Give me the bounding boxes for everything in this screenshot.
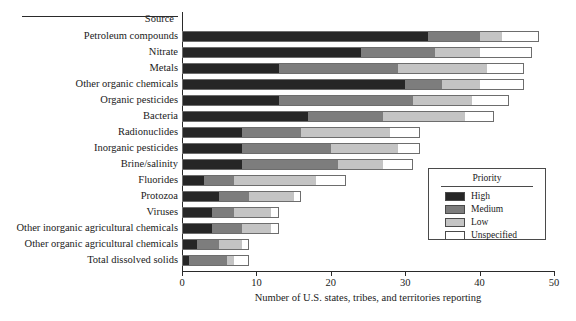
legend-item-unspecified[interactable]: Unspecified — [445, 229, 545, 241]
bar-segment-low — [442, 79, 479, 90]
bar-segment-unspec — [487, 63, 524, 74]
category-label: Other inorganic agricultural chemicals — [16, 222, 178, 233]
x-tick — [331, 271, 332, 276]
bar-segment-medium — [242, 143, 331, 154]
bar-inorganic-pesticides[interactable] — [182, 143, 420, 154]
bar-organic-pesticides[interactable] — [182, 95, 509, 106]
bar-segment-medium — [189, 255, 226, 266]
legend-swatch-unspecified — [445, 231, 465, 240]
bar-segment-medium — [204, 175, 234, 186]
category-label: Brine/salinity — [121, 158, 178, 169]
x-tick-label: 50 — [549, 277, 560, 289]
category-label: Nitrate — [149, 46, 178, 57]
bar-segment-low — [480, 31, 502, 42]
bar-segment-unspec — [271, 223, 278, 234]
bar-segment-medium — [212, 207, 234, 218]
legend-swatch-high — [445, 192, 465, 201]
legend: Priority High Medium Low Unspecified — [428, 168, 546, 240]
bar-bacteria[interactable] — [182, 111, 494, 122]
bar-segment-high — [182, 95, 279, 106]
bar-total-dissolved-solids[interactable] — [182, 255, 249, 266]
bar-segment-high — [182, 31, 428, 42]
category-label: Petroleum compounds — [84, 30, 178, 41]
bar-segment-medium — [197, 239, 219, 250]
x-tick-label: 40 — [474, 277, 485, 289]
bar-petroleum-compounds[interactable] — [182, 31, 539, 42]
legend-label-low: Low — [471, 217, 488, 228]
bar-segment-unspec — [480, 47, 532, 58]
x-tick-label: 0 — [179, 277, 184, 289]
legend-item-high[interactable]: High — [445, 190, 545, 202]
x-tick-label: 30 — [400, 277, 411, 289]
bar-segment-low — [234, 175, 316, 186]
bar-segment-low — [249, 191, 294, 202]
bar-segment-high — [182, 223, 212, 234]
bar-segment-low — [383, 111, 465, 122]
bar-radionuclides[interactable] — [182, 127, 420, 138]
bar-segment-high — [182, 175, 204, 186]
bar-segment-low — [242, 223, 272, 234]
x-tick-label: 10 — [251, 277, 262, 289]
legend-rule — [441, 186, 533, 187]
bar-segment-low — [234, 207, 271, 218]
bar-segment-low — [219, 239, 241, 250]
category-label: Other organic chemicals — [76, 78, 178, 89]
bar-segment-high — [182, 255, 189, 266]
source-header: Source — [0, 12, 178, 25]
bar-segment-unspec — [383, 159, 413, 170]
x-tick — [480, 271, 481, 276]
category-label-column: Source — [0, 12, 178, 25]
bar-other-organic-chemicals[interactable] — [182, 79, 524, 90]
x-tick — [554, 271, 555, 276]
bar-nitrate[interactable] — [182, 47, 532, 58]
x-tick — [256, 271, 257, 276]
bar-segment-low — [435, 47, 480, 58]
bar-segment-high — [182, 159, 242, 170]
category-label: Protozoa — [141, 190, 178, 201]
bar-segment-low — [227, 255, 234, 266]
legend-swatch-medium — [445, 205, 465, 214]
bar-segment-unspec — [234, 255, 249, 266]
x-tick — [405, 271, 406, 276]
bar-segment-unspec — [316, 175, 346, 186]
bar-brine-salinity[interactable] — [182, 159, 413, 170]
bar-segment-high — [182, 47, 361, 58]
x-tick-label: 20 — [326, 277, 337, 289]
bar-metals[interactable] — [182, 63, 524, 74]
x-tick — [182, 271, 183, 276]
bar-segment-high — [182, 207, 212, 218]
bar-segment-unspec — [472, 95, 509, 106]
category-label: Total dissolved solids — [87, 254, 178, 265]
bar-segment-high — [182, 111, 308, 122]
bar-other-organic-agricultural-chemicals[interactable] — [182, 239, 249, 250]
bar-segment-medium — [428, 31, 480, 42]
x-axis-title: Number of U.S. states, tribes, and terri… — [182, 292, 554, 303]
bar-segment-medium — [308, 111, 382, 122]
x-axis-line — [182, 271, 554, 272]
bar-segment-medium — [219, 191, 249, 202]
bar-other-inorganic-agricultural-chemicals[interactable] — [182, 223, 279, 234]
bar-segment-medium — [279, 63, 398, 74]
bar-segment-unspec — [480, 79, 525, 90]
bar-protozoa[interactable] — [182, 191, 301, 202]
bar-viruses[interactable] — [182, 207, 279, 218]
chart-root: Source Petroleum compoundsNitrateMetalsO… — [0, 0, 576, 321]
category-label: Other organic agricultural chemicals — [25, 238, 178, 249]
bar-segment-high — [182, 79, 405, 90]
legend-item-low[interactable]: Low — [445, 216, 545, 228]
legend-swatch-low — [445, 218, 465, 227]
bar-segment-medium — [405, 79, 442, 90]
category-label: Fluorides — [138, 174, 178, 185]
bar-fluorides[interactable] — [182, 175, 346, 186]
bar-segment-unspec — [398, 143, 420, 154]
bar-segment-low — [413, 95, 473, 106]
bar-segment-unspec — [242, 239, 249, 250]
legend-item-medium[interactable]: Medium — [445, 203, 545, 215]
bar-segment-medium — [361, 47, 435, 58]
bar-segment-high — [182, 127, 242, 138]
bar-segment-low — [398, 63, 487, 74]
bar-segment-medium — [242, 159, 339, 170]
category-label: Inorganic pesticides — [94, 142, 178, 153]
legend-label-medium: Medium — [471, 204, 503, 215]
bar-segment-unspec — [502, 31, 539, 42]
